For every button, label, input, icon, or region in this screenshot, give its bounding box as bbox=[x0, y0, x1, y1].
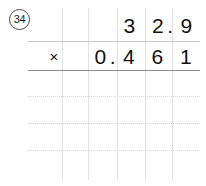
multiplicand-digit: 3 bbox=[123, 12, 135, 39]
grid-horizontal-line bbox=[28, 96, 200, 97]
multiplier-row: 0 . 4 6 1 bbox=[88, 43, 202, 70]
grid-horizontal-line bbox=[28, 123, 200, 124]
multiplier-digit: 4 bbox=[123, 43, 135, 70]
multiplication-operator: × bbox=[46, 43, 62, 70]
answer-rule bbox=[28, 70, 200, 71]
multiplier-cell: 6 bbox=[145, 43, 174, 70]
grid-vertical-line bbox=[88, 8, 89, 180]
decimal-point: . bbox=[167, 15, 173, 36]
multiplication-worksheet-problem: 34 3 2 . 9 × 0 . 4 bbox=[0, 0, 206, 186]
multiplier-cell: 1 bbox=[174, 43, 203, 70]
multiplicand-cell: 2 . bbox=[146, 12, 175, 39]
grid-vertical-line bbox=[62, 8, 63, 180]
operand-separator-rule bbox=[28, 41, 200, 42]
multiplier-digit: 6 bbox=[151, 43, 163, 70]
multiplier-digit: 1 bbox=[180, 43, 192, 70]
multiplier-cell: 4 bbox=[117, 43, 146, 70]
multiplicand-cell: 9 bbox=[174, 12, 203, 39]
multiplicand-digit: 9 bbox=[180, 12, 192, 39]
multiplicand-digit: 2 bbox=[152, 12, 164, 39]
multiplicand-cell: 3 bbox=[117, 12, 146, 39]
decimal-point: . bbox=[110, 46, 116, 67]
grid-horizontal-line bbox=[28, 150, 200, 151]
multiplier-cell: 0 . bbox=[88, 43, 117, 70]
multiplicand-row: 3 2 . 9 bbox=[117, 12, 203, 39]
multiplier-digit: 0 bbox=[94, 43, 106, 70]
